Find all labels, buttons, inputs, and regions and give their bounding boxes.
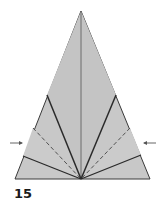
step-number: 15 xyxy=(14,186,32,201)
paper-triangle xyxy=(15,11,150,179)
arrow-right-icon xyxy=(10,141,23,145)
origami-diagram xyxy=(0,0,166,211)
arrow-left-icon xyxy=(143,141,156,145)
